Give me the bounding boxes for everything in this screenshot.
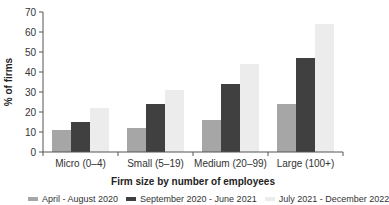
y-tick-label: 70	[25, 7, 37, 18]
bar	[315, 24, 334, 152]
legend-item: September 2020 - June 2021	[126, 194, 257, 204]
y-tick-label: 30	[25, 87, 37, 98]
x-axis-title: Firm size by number of employees	[111, 176, 275, 187]
bar	[127, 128, 146, 152]
legend-label: September 2020 - June 2021	[140, 194, 257, 204]
bar	[221, 84, 240, 152]
y-tick-label: 0	[30, 147, 36, 158]
bar	[240, 64, 259, 152]
bar	[71, 122, 90, 152]
bar	[296, 58, 315, 152]
legend-swatch	[126, 197, 136, 201]
bars-group	[52, 24, 334, 152]
bar	[146, 104, 165, 152]
y-axis-ticks: 010203040506070	[25, 7, 43, 158]
legend-swatch	[28, 197, 38, 201]
legend: April - August 2020September 2020 - June…	[28, 193, 368, 205]
bar	[277, 104, 296, 152]
bar	[202, 120, 221, 152]
y-tick-label: 10	[25, 127, 37, 138]
x-category-label: Micro (0–4)	[55, 158, 106, 169]
x-category-label: Small (5–19)	[127, 158, 184, 169]
legend-label: July 2021 - December 2022	[279, 194, 389, 204]
x-category-label: Medium (20–99)	[194, 158, 267, 169]
x-category-label: Large (100+)	[277, 158, 335, 169]
x-axis-ticks: Micro (0–4)Small (5–19)Medium (20–99)Lar…	[43, 152, 343, 169]
bar	[165, 90, 184, 152]
y-tick-label: 20	[25, 107, 37, 118]
legend-item: April - August 2020	[28, 194, 118, 204]
y-axis-title: % of firms	[3, 57, 14, 106]
legend-item: July 2021 - December 2022	[265, 194, 389, 204]
y-tick-label: 50	[25, 47, 37, 58]
legend-swatch	[265, 197, 275, 201]
y-tick-label: 40	[25, 67, 37, 78]
legend-label: April - August 2020	[42, 194, 118, 204]
y-tick-label: 60	[25, 27, 37, 38]
bar	[52, 130, 71, 152]
bar	[90, 108, 109, 152]
